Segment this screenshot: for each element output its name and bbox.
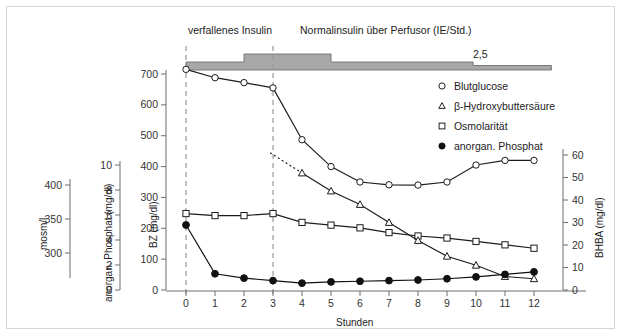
series-anorgan-phosphat-point bbox=[299, 280, 306, 287]
bz-axis-tick-label: 300 bbox=[140, 191, 158, 203]
mosm-axis-tick-label: 300 bbox=[44, 247, 62, 259]
series-anorgan-phosphat-point bbox=[183, 222, 190, 229]
x-axis-tick-label: 7 bbox=[386, 297, 392, 309]
series-osmolarit-t-point bbox=[299, 219, 305, 225]
series-anorgan-phosphat-point bbox=[270, 277, 277, 284]
chart-figure: verfallenes Insulin Normalinsulin über P… bbox=[0, 0, 622, 336]
series-hydroxybutters-ure-point bbox=[385, 219, 392, 226]
phosphat-axis-tick-label: 8 bbox=[106, 184, 112, 196]
series-blutglucose-point bbox=[212, 75, 218, 81]
series-anorgan-phosphat-point bbox=[502, 271, 509, 278]
bhba-axis-tick-label: 40 bbox=[572, 194, 584, 206]
series-anorgan-phosphat-point bbox=[531, 268, 538, 275]
series-blutglucose-point bbox=[386, 182, 392, 188]
series-blutglucose-point bbox=[473, 162, 479, 168]
insulin-infusion-bar bbox=[186, 54, 551, 70]
series-osmolarit-t-point bbox=[473, 238, 479, 244]
series-blutglucose-point bbox=[444, 179, 450, 185]
series-anorgan-phosphat-point bbox=[444, 275, 451, 282]
bhba-axis-tick-label: 20 bbox=[572, 239, 584, 251]
series-anorgan-phosphat-point bbox=[386, 277, 393, 284]
x-axis-tick-label: 6 bbox=[357, 297, 363, 309]
series-blutglucose-point bbox=[502, 157, 508, 163]
x-axis-tick-label: 4 bbox=[299, 297, 305, 309]
series-blutglucose-point bbox=[357, 179, 363, 185]
mosm-axis-tick-label: 400 bbox=[44, 179, 62, 191]
phosphat-axis-tick-label: 6 bbox=[106, 209, 112, 221]
x-axis-tick-label: 1 bbox=[212, 297, 218, 309]
bhba-axis-tick-label: 10 bbox=[572, 261, 584, 273]
series-osmolarit-t-point bbox=[241, 213, 247, 219]
series-anorgan-phosphat-point bbox=[241, 275, 248, 282]
bz-axis-tick-label: 0 bbox=[152, 284, 158, 296]
series-blutglucose-point bbox=[299, 137, 305, 143]
x-axis-tick-label: 3 bbox=[270, 297, 276, 309]
x-axis-tick-label: 12 bbox=[528, 297, 540, 309]
bz-axis-tick-label: 600 bbox=[140, 98, 158, 110]
bhba-axis-tick-label: 60 bbox=[572, 149, 584, 161]
x-axis-tick-label: 10 bbox=[470, 297, 482, 309]
series-blutglucose-point bbox=[415, 182, 421, 188]
series-anorgan-phosphat-point bbox=[328, 278, 335, 285]
series-anorgan-phosphat-line bbox=[186, 225, 534, 283]
series-hydroxybutters-ure-point bbox=[327, 187, 334, 194]
x-axis-tick-label: 0 bbox=[183, 297, 189, 309]
bz-axis-tick-label: 700 bbox=[140, 68, 158, 80]
series-hydroxybutters-ure-point bbox=[298, 169, 305, 176]
series-anorgan-phosphat-point bbox=[473, 273, 480, 280]
series-osmolarit-t-point bbox=[212, 213, 218, 219]
x-axis-tick-label: 8 bbox=[415, 297, 421, 309]
plot-area: 0123456789101112010020030040050060070002… bbox=[0, 0, 622, 336]
series-osmolarit-t-point bbox=[183, 210, 189, 216]
series-blutglucose-point bbox=[531, 157, 537, 163]
x-axis-tick-label: 5 bbox=[328, 297, 334, 309]
bz-axis-tick-label: 500 bbox=[140, 129, 158, 141]
series-osmolarit-t-point bbox=[270, 210, 276, 216]
series-blutglucose-line bbox=[186, 69, 534, 185]
series-hydroxybutters-ure-lead bbox=[270, 153, 302, 173]
bhba-axis-tick-label: 30 bbox=[572, 216, 584, 228]
series-anorgan-phosphat-point bbox=[357, 278, 364, 285]
bz-axis-tick-label: 400 bbox=[140, 160, 158, 172]
series-osmolarit-t-point bbox=[502, 242, 508, 248]
series-anorgan-phosphat-point bbox=[415, 277, 422, 284]
bz-axis-tick-label: 100 bbox=[140, 253, 158, 265]
x-axis-tick-label: 11 bbox=[500, 297, 511, 309]
series-osmolarit-t-point bbox=[328, 222, 334, 228]
bz-axis-tick-label: 200 bbox=[140, 222, 158, 234]
phosphat-axis-tick-label: 2 bbox=[106, 259, 112, 271]
series-blutglucose-point bbox=[241, 79, 247, 85]
series-hydroxybutters-ure-point bbox=[443, 253, 450, 260]
x-axis-tick-label: 9 bbox=[444, 297, 450, 309]
series-osmolarit-t-point bbox=[386, 230, 392, 236]
series-osmolarit-t-point bbox=[357, 225, 363, 231]
series-osmolarit-t-point bbox=[444, 235, 450, 241]
x-axis-tick-label: 2 bbox=[241, 297, 247, 309]
phosphat-axis-tick-label: 4 bbox=[106, 234, 112, 246]
phosphat-axis-tick-label: 0 bbox=[106, 284, 112, 296]
series-blutglucose-point bbox=[270, 85, 276, 91]
bhba-axis-tick-label: 50 bbox=[572, 171, 584, 183]
series-blutglucose-point bbox=[328, 163, 334, 169]
bhba-axis-tick-label: 0 bbox=[572, 284, 578, 296]
phosphat-axis-tick-label: 10 bbox=[100, 159, 112, 171]
mosm-axis-tick-label: 350 bbox=[44, 213, 62, 225]
series-blutglucose-point bbox=[183, 66, 189, 72]
series-osmolarit-t-point bbox=[531, 245, 537, 251]
series-hydroxybutters-ure-point bbox=[356, 201, 363, 208]
series-anorgan-phosphat-point bbox=[212, 270, 219, 277]
